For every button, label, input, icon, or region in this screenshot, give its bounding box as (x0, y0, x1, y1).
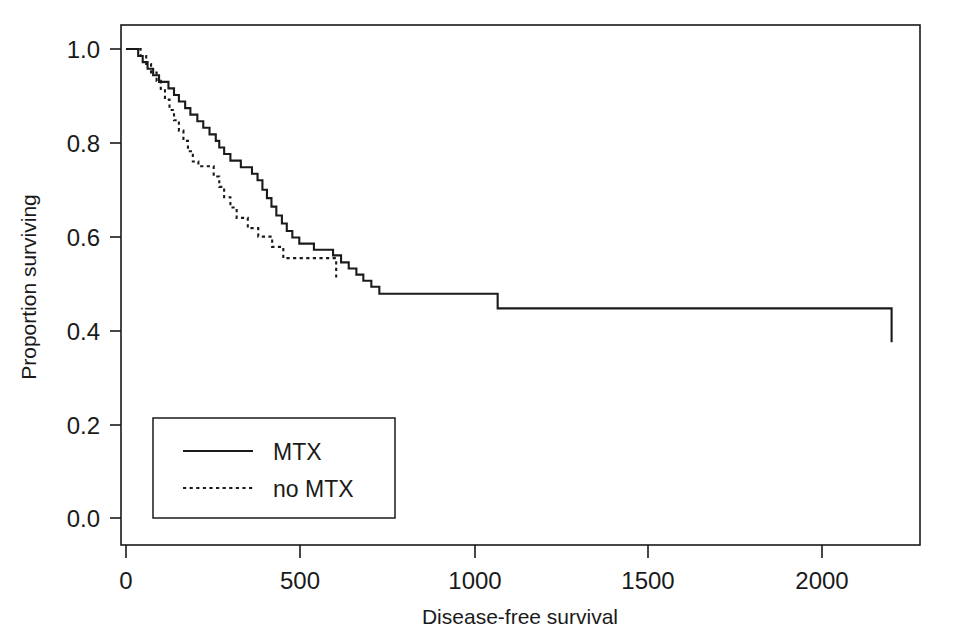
y-tick-label-1.0: 1.0 (67, 36, 100, 63)
y-tick-label-0.4: 0.4 (67, 318, 100, 345)
y-tick-label-0.8: 0.8 (67, 130, 100, 157)
y-tick-label-0.2: 0.2 (67, 412, 100, 439)
x-tick-label-500: 500 (280, 567, 320, 594)
y-axis-title: Proportion surviving (17, 194, 40, 380)
plot-frame (121, 25, 920, 545)
legend-label-mtx: MTX (273, 439, 322, 465)
figure-container: 1.0 0.8 0.6 0.4 0.2 0.0 0 500 1000 1500 … (0, 0, 953, 639)
y-tick-label-0.0: 0.0 (67, 505, 100, 532)
x-axis-title: Disease-free survival (422, 605, 618, 628)
y-tick-label-0.6: 0.6 (67, 224, 100, 251)
legend-label-no-mtx: no MTX (273, 476, 354, 502)
x-tick-label-2000: 2000 (795, 567, 848, 594)
y-axis-ticks (110, 49, 121, 518)
x-axis-ticks (126, 545, 822, 558)
survival-chart: 1.0 0.8 0.6 0.4 0.2 0.0 0 500 1000 1500 … (0, 0, 953, 639)
x-tick-label-1500: 1500 (621, 567, 674, 594)
x-tick-label-0: 0 (119, 567, 132, 594)
legend: MTX no MTX (153, 418, 395, 518)
x-tick-label-1000: 1000 (448, 567, 501, 594)
series-line-mtx (126, 49, 892, 342)
legend-box (153, 418, 395, 518)
